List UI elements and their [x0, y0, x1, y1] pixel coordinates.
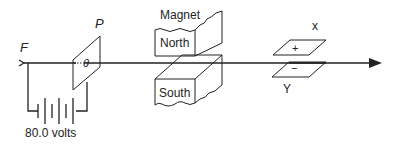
- south-label: South: [159, 86, 190, 100]
- plate-x-sign: +: [292, 42, 298, 54]
- plate-p: P θ: [73, 16, 104, 90]
- plate-p-label: P: [95, 16, 104, 31]
- south-top-edge: [155, 55, 222, 79]
- south-top-front-edge: [195, 55, 222, 79]
- circuit: [28, 63, 87, 111]
- wire-left: [28, 63, 38, 111]
- plate-x-label: x: [312, 19, 318, 33]
- filament-emitter-icon: [19, 60, 24, 66]
- filament: F: [19, 40, 29, 66]
- beam-arrow-icon: [369, 58, 382, 68]
- battery-voltage-label: 80.0 volts: [25, 126, 76, 140]
- battery: 80.0 volts: [25, 98, 76, 140]
- plate-x-shape: [273, 40, 326, 55]
- filament-label: F: [20, 40, 29, 55]
- plate-y-label: Y: [283, 82, 291, 96]
- magnet-north: North Magnet: [155, 8, 222, 56]
- apparatus-diagram: F 80.0 volts P θ North Magnet South: [0, 0, 397, 148]
- deflection-plate-y: − Y: [272, 62, 326, 96]
- plate-y-shape: [272, 62, 326, 77]
- magnet-label: Magnet: [160, 8, 201, 22]
- deflection-plates: + x: [273, 19, 326, 55]
- north-label: North: [160, 36, 189, 50]
- plate-y-sign: −: [291, 62, 297, 74]
